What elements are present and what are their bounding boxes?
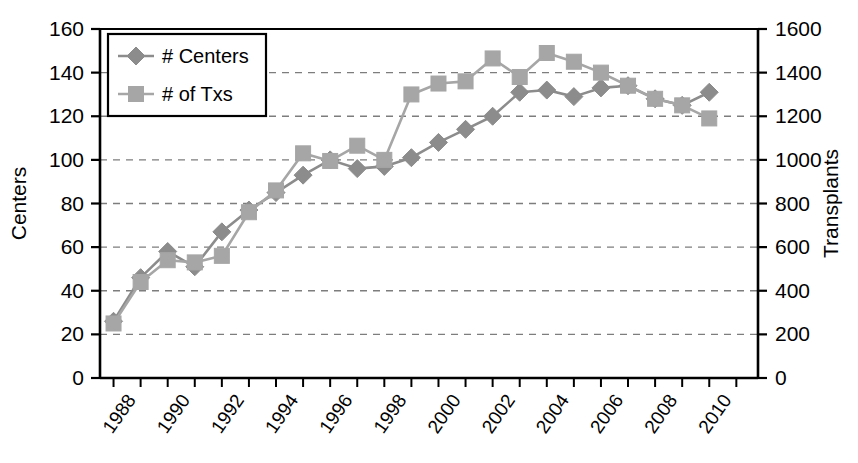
x-tick-label-2002: 2002	[478, 390, 519, 437]
data-point-1-10	[377, 152, 392, 167]
data-point-0-18	[592, 79, 610, 97]
y-axis-right: 02004006008001000120014001600	[758, 17, 822, 389]
legend-label-1: # of Txs	[162, 83, 233, 105]
data-point-1-20	[648, 91, 663, 106]
x-tick-label-1998: 1998	[369, 390, 410, 437]
data-point-0-13	[457, 120, 475, 138]
data-point-0-7	[294, 166, 312, 184]
data-point-1-13	[458, 74, 473, 89]
data-point-1-17	[566, 54, 581, 69]
y-tick-label-left-60: 60	[61, 235, 84, 258]
data-point-0-9	[348, 160, 366, 178]
data-point-1-7	[296, 146, 311, 161]
data-point-0-16	[538, 81, 556, 99]
y-tick-label-right-800: 800	[775, 192, 810, 215]
data-point-1-12	[431, 76, 446, 91]
data-point-0-17	[565, 88, 583, 106]
data-point-1-22	[702, 111, 717, 126]
y-tick-label-left-0: 0	[72, 366, 84, 389]
y-tick-label-right-200: 200	[775, 322, 810, 345]
y-tick-label-left-20: 20	[61, 322, 84, 345]
x-tick-label-1994: 1994	[261, 390, 303, 437]
data-point-1-8	[323, 153, 338, 168]
data-point-1-4	[214, 248, 229, 263]
y-tick-label-right-0: 0	[775, 366, 787, 389]
x-tick-label-1992: 1992	[207, 390, 248, 437]
y-tick-label-right-1000: 1000	[775, 148, 822, 171]
y-tick-label-left-160: 160	[49, 17, 84, 40]
legend-marker-1	[129, 87, 144, 102]
data-point-1-6	[269, 183, 284, 198]
x-tick-label-2000: 2000	[423, 390, 464, 437]
y-axis-right-title: Transplants	[819, 149, 842, 258]
y-tick-label-right-600: 600	[775, 235, 810, 258]
data-point-1-19	[621, 78, 636, 93]
legend-label-0: # Centers	[162, 45, 249, 67]
data-point-1-11	[404, 87, 419, 102]
y-tick-label-right-1400: 1400	[775, 61, 822, 84]
x-tick-label-1996: 1996	[315, 390, 356, 437]
x-tick-label-2004: 2004	[532, 390, 574, 437]
data-point-1-9	[350, 138, 365, 153]
x-tick-label-2006: 2006	[586, 390, 627, 437]
y-axis-left-title: Centers	[7, 167, 30, 241]
y-tick-label-right-1200: 1200	[775, 104, 822, 127]
data-point-1-15	[512, 69, 527, 84]
data-point-1-1	[133, 275, 148, 290]
data-point-1-5	[241, 205, 256, 220]
y-tick-label-left-80: 80	[61, 192, 84, 215]
chart-container: 0204060801001201401600200400600800100012…	[0, 0, 858, 463]
y-tick-label-left-120: 120	[49, 104, 84, 127]
data-point-1-14	[485, 51, 500, 66]
x-tick-label-2010: 2010	[694, 390, 735, 437]
x-axis: 1988199019921994199619982000200220042006…	[98, 378, 736, 437]
data-point-1-18	[593, 65, 608, 80]
data-point-1-21	[675, 98, 690, 113]
data-point-0-12	[429, 133, 447, 151]
data-point-0-22	[700, 83, 718, 101]
data-point-1-0	[106, 316, 121, 331]
x-tick-label-1988: 1988	[98, 390, 139, 437]
data-point-0-11	[402, 149, 420, 167]
x-tick-label-1990: 1990	[153, 390, 194, 437]
data-point-1-2	[160, 253, 175, 268]
y-tick-label-right-400: 400	[775, 279, 810, 302]
y-tick-label-left-100: 100	[49, 148, 84, 171]
y-tick-label-left-40: 40	[61, 279, 84, 302]
series-line-0	[114, 86, 710, 322]
y-tick-label-left-140: 140	[49, 61, 84, 84]
data-point-1-16	[539, 45, 554, 60]
combined-line-chart: 0204060801001201401600200400600800100012…	[0, 0, 858, 463]
data-point-1-3	[187, 255, 202, 270]
legend: # Centers# of Txs	[108, 34, 266, 116]
y-axis-left: 020406080100120140160	[49, 17, 100, 389]
y-tick-label-right-1600: 1600	[775, 17, 822, 40]
x-tick-label-2008: 2008	[640, 390, 681, 437]
